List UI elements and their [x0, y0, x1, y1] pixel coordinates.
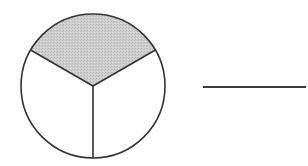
fraction-diagram	[0, 0, 308, 166]
answer-blank-line[interactable]	[203, 86, 306, 88]
